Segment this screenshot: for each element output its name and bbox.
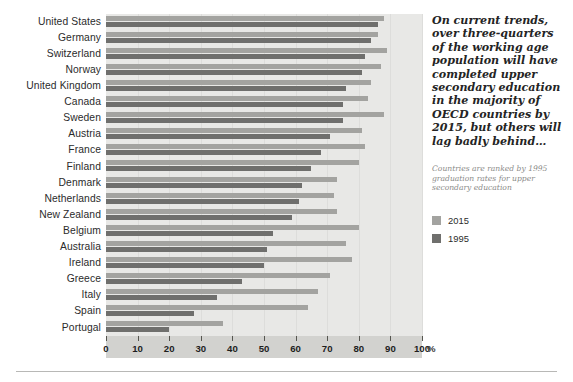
- bar-2015: [106, 16, 384, 21]
- bar-group: [106, 111, 422, 127]
- x-axis-tick: [359, 336, 360, 341]
- x-axis-tick-label: 70: [322, 343, 333, 354]
- bar-1995: [106, 199, 299, 204]
- bar-1995: [106, 247, 267, 252]
- bar-2015: [106, 160, 359, 165]
- x-axis-tick: [106, 336, 107, 341]
- bar-2015: [106, 321, 223, 326]
- legend-swatch-icon: [432, 234, 441, 243]
- category-label: Germany: [0, 32, 101, 43]
- bar-group: [106, 288, 422, 304]
- x-axis-tick-label: 0: [103, 343, 108, 354]
- x-axis-tick: [390, 336, 391, 341]
- bar-group: [106, 223, 422, 239]
- x-axis-tick-label: 80: [353, 343, 364, 354]
- category-label: Austria: [0, 128, 101, 139]
- bar-2015: [106, 193, 334, 198]
- x-axis-tick-label: 40: [227, 343, 238, 354]
- bar-1995: [106, 215, 292, 220]
- category-label: Australia: [0, 241, 101, 252]
- bar-2015: [106, 144, 365, 149]
- chart-caption: Countries are ranked by 1995 graduation …: [432, 164, 564, 193]
- bar-group: [106, 95, 422, 111]
- bar-2015: [106, 305, 308, 310]
- legend-item[interactable]: 2015: [432, 215, 564, 226]
- bar-2015: [106, 209, 337, 214]
- bar-group: [106, 175, 422, 191]
- bar-1995: [106, 38, 371, 43]
- bar-1995: [106, 22, 378, 27]
- bar-group: [106, 127, 422, 143]
- x-axis-tick: [138, 336, 139, 341]
- category-label: Sweden: [0, 112, 101, 123]
- bar-group: [106, 159, 422, 175]
- bar-group: [106, 256, 422, 272]
- bar-group: [106, 14, 422, 30]
- x-axis-tick-label: 90: [385, 343, 396, 354]
- bar-group: [106, 191, 422, 207]
- bar-1995: [106, 118, 343, 123]
- legend-label: 2015: [448, 215, 469, 226]
- gridline: [422, 14, 423, 336]
- category-label: Spain: [0, 305, 101, 316]
- bar-2015: [106, 257, 352, 262]
- bar-group: [106, 304, 422, 320]
- category-label: Finland: [0, 161, 101, 172]
- bar-1995: [106, 327, 169, 332]
- category-label: United States: [0, 16, 101, 27]
- legend-swatch-icon: [432, 216, 441, 225]
- bar-2015: [106, 241, 346, 246]
- bar-2015: [106, 177, 337, 182]
- x-axis-tick: [264, 336, 265, 341]
- legend-item[interactable]: 1995: [432, 233, 564, 244]
- category-label: Belgium: [0, 225, 101, 236]
- x-axis: 0102030405060708090100: [106, 336, 422, 358]
- bottom-divider: [16, 371, 557, 372]
- bar-2015: [106, 112, 384, 117]
- bar-1995: [106, 295, 217, 300]
- bar-1995: [106, 279, 242, 284]
- bar-1995: [106, 166, 311, 171]
- category-label: Switzerland: [0, 48, 101, 59]
- bar-2015: [106, 32, 378, 37]
- bar-1995: [106, 134, 330, 139]
- bar-1995: [106, 150, 321, 155]
- legend: 20151995: [432, 215, 564, 244]
- x-axis-tick: [201, 336, 202, 341]
- category-label: Italy: [0, 289, 101, 300]
- bar-group: [106, 30, 422, 46]
- bar-rows: [106, 14, 422, 336]
- x-axis-tick-label: 10: [132, 343, 143, 354]
- plot-area: [106, 14, 422, 336]
- bar-1995: [106, 311, 194, 316]
- category-label: Norway: [0, 64, 101, 75]
- x-axis-tick-label: 30: [195, 343, 206, 354]
- bar-2015: [106, 80, 371, 85]
- category-label: Ireland: [0, 257, 101, 268]
- bar-2015: [106, 289, 318, 294]
- x-axis-tick-label: 60: [290, 343, 301, 354]
- bar-2015: [106, 273, 330, 278]
- bar-group: [106, 46, 422, 62]
- category-label: France: [0, 144, 101, 155]
- bar-group: [106, 62, 422, 78]
- bar-1995: [106, 86, 346, 91]
- legend-label: 1995: [448, 233, 469, 244]
- x-axis-unit-label: %: [427, 343, 436, 354]
- bar-group: [106, 239, 422, 255]
- bar-group: [106, 320, 422, 336]
- x-axis-tick-label: 50: [259, 343, 270, 354]
- bar-1995: [106, 70, 362, 75]
- category-label: United Kingdom: [0, 80, 101, 91]
- category-axis-labels: United StatesGermanySwitzerlandNorwayUni…: [0, 14, 101, 336]
- category-label: Netherlands: [0, 193, 101, 204]
- chart-annotation: On current trends, over three-quarters o…: [432, 14, 564, 148]
- x-axis-tick: [296, 336, 297, 341]
- bar-2015: [106, 96, 368, 101]
- category-label: Greece: [0, 273, 101, 284]
- x-axis-tick: [327, 336, 328, 341]
- bar-1995: [106, 231, 273, 236]
- bar-1995: [106, 183, 302, 188]
- x-axis-tick: [232, 336, 233, 341]
- bar-2015: [106, 225, 359, 230]
